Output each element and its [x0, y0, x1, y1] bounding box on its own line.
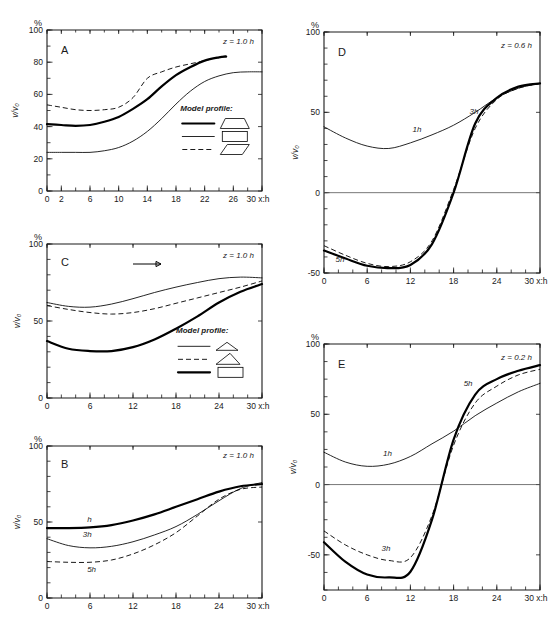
legend: Model profile: [176, 326, 243, 377]
panel-D: 0612182430 x:h-50050100%v/v₀Dz = 0.6 h1h… [282, 8, 558, 308]
ytick-label: -50 [308, 268, 321, 278]
xtick-label: 12 [128, 601, 138, 611]
legend-title: Model profile: [176, 326, 229, 335]
series-rectangle-profile [47, 284, 262, 351]
panel-annotation: z = 1.0 h [222, 251, 254, 260]
xtick-label: 2 [59, 194, 64, 204]
xtick-label: 30 x:h [246, 601, 269, 611]
percent-label: % [311, 20, 319, 30]
y-axis-title: v/v₀ [288, 459, 298, 474]
xtick-label: 18 [171, 401, 181, 411]
figure-velocity-profiles: 026101418222630 x:h020406080100%v/v₀Az =… [0, 0, 558, 625]
curve-label-5h: 5h [336, 255, 345, 264]
panel-annotation: z = 1.0 h [222, 37, 254, 46]
percent-label: % [34, 232, 42, 242]
xtick-label: 30 x:h [524, 593, 547, 603]
panel-letter: B [61, 458, 68, 470]
y-axis-title: v/v₀ [12, 514, 22, 529]
xtick-label: 18 [171, 194, 181, 204]
legend-shape-rectangle [222, 132, 247, 142]
curve-label-3h: 3h [469, 107, 478, 116]
curve-label-3h: 3h [83, 530, 92, 539]
xtick-label: 12 [406, 593, 416, 603]
xtick-label: 0 [45, 401, 50, 411]
xtick-label: 6 [88, 194, 93, 204]
plot-frame [324, 32, 540, 273]
y-axis-title: v/v₀ [10, 103, 20, 118]
ytick-label: 0 [315, 480, 320, 490]
y-axis-title: v/v₀ [290, 145, 300, 160]
xtick-label: 30 x:h [524, 276, 547, 286]
series-flat-triangle-profile [47, 277, 262, 307]
curve-label-1h: 1h [413, 125, 422, 134]
legend-title: Model profile: [180, 104, 233, 113]
panel-E-plot: 0612182430 x:h-50050100%v/v₀Ez = 0.2 h1h… [282, 318, 558, 625]
xtick-label: 12 [128, 401, 138, 411]
xtick-label: 6 [365, 276, 370, 286]
legend-shape-rectangle [218, 367, 243, 377]
ytick-label: 50 [34, 316, 44, 326]
panel-B-plot: 0612182430 x:h050100%v/v₀Bz = 1.0 hh3h5h [0, 428, 280, 625]
ytick-label: 0 [38, 393, 43, 403]
xtick-label: 18 [449, 276, 459, 286]
xtick-label: 0 [322, 593, 327, 603]
legend-shape-triangle [216, 353, 240, 364]
series-3h-curve [324, 369, 540, 562]
xtick-label: 30 x:h [246, 194, 269, 204]
ytick-label: 50 [311, 107, 321, 117]
curve-label-5h: 5h [87, 565, 96, 574]
ytick-label: 60 [34, 89, 44, 99]
xtick-label: 26 [229, 194, 239, 204]
ytick-label: 0 [315, 188, 320, 198]
xtick-label: 12 [406, 276, 416, 286]
series-1h-curve [324, 83, 540, 148]
curve-label-5h: 5h [464, 379, 473, 388]
legend: Model profile: [180, 104, 249, 155]
xtick-label: 24 [492, 276, 502, 286]
percent-label: % [34, 18, 42, 28]
panel-B: 0612182430 x:h050100%v/v₀Bz = 1.0 hh3h5h [0, 428, 280, 625]
xtick-label: 24 [214, 601, 224, 611]
xtick-label: 6 [365, 593, 370, 603]
xtick-label: 24 [214, 401, 224, 411]
panel-E: 0612182430 x:h-50050100%v/v₀Ez = 0.2 h1h… [282, 318, 558, 625]
xtick-label: 6 [88, 601, 93, 611]
panel-letter: E [338, 358, 345, 370]
plot-frame [47, 446, 262, 598]
panel-letter: A [61, 44, 69, 56]
panel-A: 026101418222630 x:h020406080100%v/v₀Az =… [0, 8, 280, 213]
xtick-label: 10 [114, 194, 124, 204]
xtick-label: 24 [492, 593, 502, 603]
curve-label-1h: 1h [383, 449, 392, 458]
panel-letter: D [338, 46, 346, 58]
xtick-label: 0 [322, 276, 327, 286]
ytick-label: 80 [34, 57, 44, 67]
plot-frame [324, 344, 540, 590]
xtick-label: 18 [449, 593, 459, 603]
xtick-label: 14 [143, 194, 153, 204]
series-3h-curve [324, 83, 540, 266]
curve-label-h: h [87, 515, 92, 524]
ytick-label: 0 [38, 186, 43, 196]
ytick-label: -50 [308, 550, 321, 560]
xtick-label: 30 x:h [246, 401, 269, 411]
panel-annotation: z = 1.0 h [222, 451, 254, 460]
series-trapezoid-profile [47, 57, 226, 126]
percent-label: % [311, 332, 319, 342]
xtick-label: 6 [88, 401, 93, 411]
legend-shape-parallelogram [220, 145, 249, 155]
panel-D-plot: 0612182430 x:h-50050100%v/v₀Dz = 0.6 h1h… [282, 8, 558, 308]
ytick-label: 40 [34, 122, 44, 132]
xtick-label: 0 [45, 194, 50, 204]
xtick-label: 22 [200, 194, 210, 204]
ytick-label: 50 [311, 409, 321, 419]
curve-label-3h: 3h [382, 544, 391, 553]
xtick-label: 0 [45, 601, 50, 611]
ytick-label: 0 [38, 593, 43, 603]
panel-C: 0612182430 x:h050100%v/v₀Cz = 1.0 hModel… [0, 228, 280, 426]
panel-letter: C [61, 256, 69, 268]
ytick-label: 50 [34, 517, 44, 527]
y-axis-title: v/v₀ [12, 313, 22, 328]
percent-label: % [34, 434, 42, 444]
series-h-curve [47, 484, 262, 528]
